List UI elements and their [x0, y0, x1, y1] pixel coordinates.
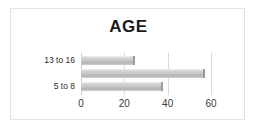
plot-area [81, 53, 212, 95]
bar-series [81, 53, 212, 95]
category-axis-labels: 13 to 16 5 to 8 [19, 53, 79, 95]
category-label-5-to-8: 5 to 8 [19, 82, 75, 91]
screenshot-root: AGE 13 to 16 5 to 8 [0, 0, 256, 130]
tick-label-40: 40 [162, 98, 173, 110]
chart-title: AGE [11, 17, 246, 37]
category-label-13-to-16: 13 to 16 [19, 56, 75, 65]
tick-label-0: 0 [78, 98, 84, 110]
tick-label-20: 20 [119, 98, 130, 110]
bar-5-to-8[interactable] [81, 82, 163, 91]
value-axis-tick-labels: 0 20 40 60 [81, 98, 212, 112]
bar-13-to-16[interactable] [81, 56, 135, 65]
bar-middle[interactable] [81, 69, 205, 78]
tick-label-60: 60 [205, 98, 216, 110]
chart-frame: AGE 13 to 16 5 to 8 [10, 8, 245, 120]
